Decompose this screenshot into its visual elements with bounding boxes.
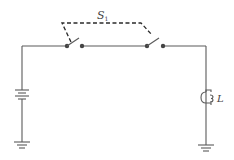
switch-label-subscript: 1: [105, 15, 109, 22]
battery-icon: [15, 90, 29, 99]
right-branch: [198, 46, 214, 151]
switch-contact-dot: [161, 44, 165, 48]
ground-icon-left: [14, 142, 30, 148]
left-branch: [14, 46, 30, 148]
circuit-diagram: S 1 L: [0, 0, 234, 160]
switch-s1-a: [65, 38, 84, 48]
lamp-label: L: [216, 93, 224, 104]
switch-s1-b: [145, 38, 165, 48]
ground-icon-right: [198, 145, 214, 151]
lamp-icon: [201, 90, 213, 105]
ganged-linkage: [62, 23, 152, 42]
switch-contact-dot: [80, 44, 84, 48]
